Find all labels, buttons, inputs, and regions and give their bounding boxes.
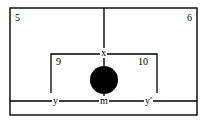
label-top-left: 5 [14,13,21,23]
label-baseline-center: m [99,96,109,106]
label-top-right: 6 [186,13,193,23]
label-inner-left: 9 [55,57,62,67]
filled-circle [90,66,118,94]
label-apex: x [100,48,107,58]
label-inner-right: 10 [137,57,149,67]
label-baseline-right: y′ [144,96,153,106]
diagram-figure: 5 6 9 10 x y m y′ [0,0,207,122]
label-baseline-left: y [52,96,59,106]
